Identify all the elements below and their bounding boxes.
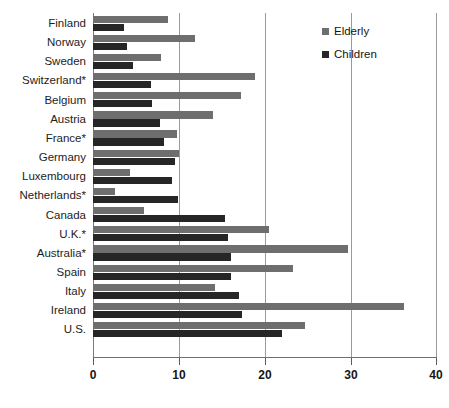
bar-elderly	[93, 207, 144, 214]
bar-elderly	[93, 54, 161, 61]
x-tick-label-20: 20	[245, 368, 285, 382]
bar-elderly	[93, 73, 255, 80]
bar-children	[93, 311, 242, 318]
bar-row: Italy	[0, 282, 449, 301]
x-tick-20	[265, 358, 266, 365]
category-label: Spain	[0, 263, 86, 282]
bar-row: U.S.	[0, 320, 449, 339]
category-label: Finland	[0, 14, 86, 33]
category-label: Germany	[0, 148, 86, 167]
bar-elderly	[93, 265, 293, 272]
category-label: Norway	[0, 33, 86, 52]
bar-children	[93, 177, 172, 184]
category-label: Luxembourg	[0, 167, 86, 186]
bar-elderly	[93, 322, 305, 329]
bar-elderly	[93, 226, 269, 233]
x-tick-0	[93, 358, 94, 365]
legend-label: Elderly	[334, 25, 369, 37]
x-tick-label-30: 30	[331, 368, 371, 382]
legend-item-children: Children	[322, 47, 422, 61]
bar-children	[93, 43, 127, 50]
bar-row: Germany	[0, 148, 449, 167]
legend-swatch-icon	[322, 51, 329, 58]
bar-row: Luxembourg	[0, 167, 449, 186]
bar-children	[93, 100, 152, 107]
legend-label: Children	[334, 48, 377, 60]
category-label: Austria	[0, 110, 86, 129]
bar-elderly	[93, 130, 177, 137]
bar-elderly	[93, 35, 195, 42]
legend-swatch-icon	[322, 28, 329, 35]
category-label: France*	[0, 129, 86, 148]
category-label: Australia*	[0, 244, 86, 263]
category-label: Canada	[0, 206, 86, 225]
category-label: Ireland	[0, 301, 86, 320]
chart-legend: Elderly Children	[322, 24, 422, 70]
legend-item-elderly: Elderly	[322, 24, 422, 38]
bar-elderly	[93, 150, 179, 157]
bar-row: Austria	[0, 110, 449, 129]
bar-elderly	[93, 245, 348, 252]
bar-row: Canada	[0, 206, 449, 225]
bar-elderly	[93, 188, 115, 195]
bar-chart: FinlandNorwaySwedenSwitzerland*BelgiumAu…	[0, 0, 449, 408]
bar-row: Spain	[0, 263, 449, 282]
bar-row: Australia*	[0, 244, 449, 263]
x-tick-40	[436, 358, 437, 365]
category-label: Switzerland*	[0, 71, 86, 90]
bar-children	[93, 196, 178, 203]
bar-children	[93, 119, 160, 126]
bar-elderly	[93, 111, 213, 118]
bar-children	[93, 292, 239, 299]
bar-children	[93, 330, 282, 337]
category-label: Sweden	[0, 52, 86, 71]
bar-elderly	[93, 16, 168, 23]
bar-children	[93, 62, 133, 69]
category-label: U.S.	[0, 320, 86, 339]
bar-elderly	[93, 92, 241, 99]
bar-elderly	[93, 169, 130, 176]
x-tick-label-0: 0	[73, 368, 113, 382]
bar-row: U.K.*	[0, 225, 449, 244]
bar-children	[93, 158, 175, 165]
x-tick-30	[351, 358, 352, 365]
bar-elderly	[93, 284, 215, 291]
category-label: Belgium	[0, 91, 86, 110]
bar-children	[93, 234, 228, 241]
bar-row: Netherlands*	[0, 186, 449, 205]
bar-children	[93, 273, 231, 280]
category-label: U.K.*	[0, 225, 86, 244]
bar-children	[93, 24, 124, 31]
bar-row: France*	[0, 129, 449, 148]
bar-row: Belgium	[0, 91, 449, 110]
bar-children	[93, 215, 225, 222]
bar-row: Switzerland*	[0, 71, 449, 90]
x-tick-label-40: 40	[416, 368, 449, 382]
bar-elderly	[93, 303, 404, 310]
bar-row: Ireland	[0, 301, 449, 320]
x-tick-10	[179, 358, 180, 365]
category-label: Netherlands*	[0, 186, 86, 205]
bar-children	[93, 81, 151, 88]
category-label: Italy	[0, 282, 86, 301]
bar-children	[93, 138, 164, 145]
x-tick-label-10: 10	[159, 368, 199, 382]
bar-children	[93, 253, 231, 260]
